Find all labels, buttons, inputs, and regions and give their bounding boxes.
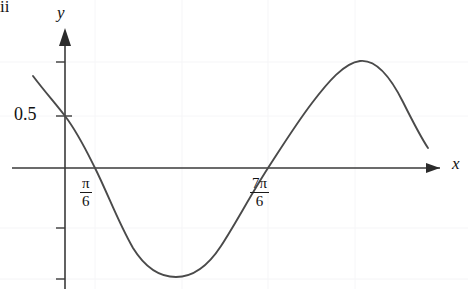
- graph-figure: ii y x 0.5 π 6 7π 6: [0, 0, 468, 289]
- x-axis-label: x: [452, 155, 460, 172]
- y-tick-label-0.5: 0.5: [14, 105, 37, 123]
- x-axis: [12, 163, 440, 173]
- x-intercept-label-7pi-over-6: 7π 6: [250, 176, 269, 209]
- fraction-numerator: 7π: [250, 176, 269, 191]
- y-axis-ticks: [56, 62, 72, 279]
- y-axis: [59, 28, 71, 289]
- sine-curve-plot: [0, 0, 468, 289]
- x-intercept-label-pi-over-6: π 6: [80, 176, 92, 209]
- fraction-numerator: π: [80, 176, 92, 191]
- grid-lines: [0, 0, 468, 289]
- curve-path: [33, 61, 428, 277]
- fraction-denominator: 6: [80, 194, 92, 209]
- y-axis-label: y: [57, 4, 65, 21]
- cropped-corner-glyph: ii: [0, 0, 9, 20]
- fraction-denominator: 6: [250, 194, 269, 209]
